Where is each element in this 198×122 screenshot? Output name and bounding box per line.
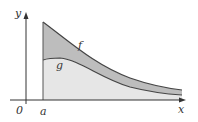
area-between-curves-figure: y x 0 a f g — [0, 0, 198, 122]
graph — [0, 0, 198, 122]
f-label: f — [78, 40, 82, 51]
a-label: a — [40, 106, 47, 117]
y-axis-arrow-icon — [24, 12, 29, 19]
g-label: g — [56, 60, 63, 71]
x-axis-arrow-icon — [179, 98, 186, 103]
y-axis-label: y — [15, 8, 21, 19]
origin-label: 0 — [16, 105, 23, 116]
x-axis-label: x — [178, 104, 184, 115]
